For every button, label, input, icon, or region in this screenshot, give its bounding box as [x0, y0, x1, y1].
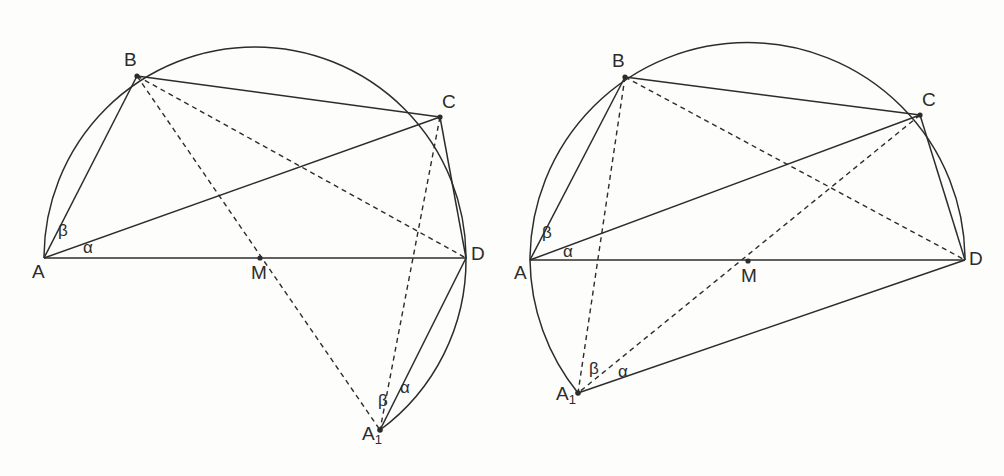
right-label-A1: A1: [556, 384, 576, 406]
right-angle-alpha-at-A: α: [563, 243, 573, 260]
left-label-A1-base: A: [362, 423, 375, 444]
point-dot-A1: [575, 390, 581, 396]
segment-C-D: [440, 117, 466, 258]
point-dot-C: [917, 112, 922, 117]
segment-D-A1: [380, 258, 466, 430]
point-dot-M: [257, 255, 262, 260]
segment-B-C: [625, 77, 920, 115]
point-dot-M: [745, 258, 750, 263]
right-label-A1-base: A: [556, 383, 569, 404]
left-label-C: C: [442, 92, 456, 111]
right-label-C: C: [922, 90, 936, 109]
left-label-A1-subscript: 1: [375, 432, 382, 447]
segment-A-C: [44, 117, 440, 258]
point-dot-C: [437, 114, 442, 119]
segment-B-D: [625, 77, 965, 260]
segment-C-A1: [380, 117, 440, 430]
point-dot-B: [134, 73, 139, 78]
segment-B-A1: [578, 77, 625, 393]
right-label-M: M: [741, 266, 757, 285]
right-angle-beta-at-A1: β: [589, 360, 599, 377]
point-dot-B: [622, 74, 627, 79]
segment-C-D: [920, 115, 965, 260]
left-angle-alpha-at-A: α: [83, 239, 93, 256]
arc-A-to-A1-lower: [530, 260, 578, 393]
right-angle-alpha-at-A1: α: [618, 363, 628, 380]
diagram-canvas: A B C D M A1 β α β α A B C D M A1 β α β …: [0, 0, 1004, 476]
left-label-A1: A1: [362, 424, 382, 446]
right-label-B: B: [612, 51, 625, 70]
right-label-D: D: [969, 249, 983, 268]
right-figure-group: [530, 43, 965, 396]
left-angle-beta-at-A1: β: [378, 392, 388, 409]
left-label-D: D: [471, 244, 485, 263]
geometry-svg: [0, 0, 1004, 476]
segment-D-A1: [578, 260, 965, 393]
arc-A-to-D-upper: [530, 43, 965, 260]
segment-A-C: [530, 115, 920, 260]
segment-B-C: [137, 76, 440, 117]
left-angle-alpha-at-A1: α: [400, 379, 410, 396]
left-label-A: A: [32, 262, 45, 281]
right-label-A: A: [514, 263, 527, 282]
right-label-A1-subscript: 1: [569, 392, 576, 407]
left-label-M: M: [251, 263, 267, 282]
right-angle-beta-at-A: β: [542, 224, 552, 241]
left-angle-beta-at-A: β: [58, 222, 68, 239]
left-figure-group: [44, 47, 466, 433]
arc-A-to-D-upper: [44, 47, 466, 258]
segment-C-A1: [578, 115, 920, 393]
segment-B-A1: [137, 76, 380, 430]
left-label-B: B: [124, 50, 137, 69]
